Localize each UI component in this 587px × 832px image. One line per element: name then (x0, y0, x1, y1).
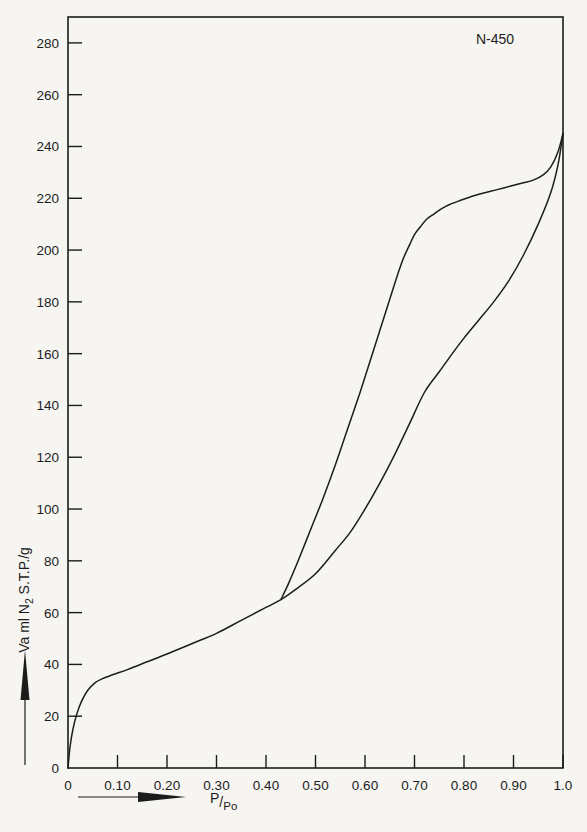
y-tick-label: 280 (36, 36, 59, 51)
y-axis-title-post: S.T.P./g (16, 547, 32, 598)
x-tick-label: 0.70 (401, 778, 427, 793)
x-tick-label: 0.50 (302, 778, 328, 793)
adsorption-branch-curve (68, 134, 563, 768)
isotherm-plot: 020406080100120140160180200220240260280 … (0, 0, 587, 832)
y-axis: 020406080100120140160180200220240260280 (36, 36, 82, 776)
y-tick-label: 60 (44, 606, 59, 621)
y-tick-label: 100 (36, 502, 59, 517)
x-axis-title-numerator: P (210, 790, 219, 806)
y-axis-title-pre: Va ml N (16, 604, 32, 653)
y-tick-label: 220 (36, 191, 59, 206)
y-tick-label: 160 (36, 347, 59, 362)
x-axis: 00.100.200.300.400.500.600.700.800.901.0 (64, 755, 572, 793)
y-tick-label: 240 (36, 139, 59, 154)
chart-figure: 020406080100120140160180200220240260280 … (0, 0, 587, 832)
y-axis-title: Va ml N2 S.T.P./g (16, 547, 35, 653)
x-tick-label: 0.90 (500, 778, 526, 793)
x-tick-label: 1.0 (554, 778, 573, 793)
x-tick-label: 0 (64, 778, 72, 793)
y-axis-direction-arrow (21, 650, 30, 765)
y-tick-label: 200 (36, 243, 59, 258)
y-tick-label: 180 (36, 295, 59, 310)
y-axis-title-group: Va ml N2 S.T.P./g (16, 547, 35, 765)
y-tick-label: 140 (36, 398, 59, 413)
x-axis-title: P/Po (210, 790, 237, 812)
y-tick-label: 260 (36, 88, 59, 103)
y-tick-label: 80 (44, 554, 59, 569)
y-tick-label: 40 (44, 657, 59, 672)
y-tick-label: 0 (51, 761, 59, 776)
sample-annotation-label: N-450 (476, 31, 514, 47)
y-tick-label: 20 (44, 709, 59, 724)
y-tick-label: 120 (36, 450, 59, 465)
x-axis-direction-arrow (78, 792, 186, 802)
x-tick-label: 0.20 (154, 778, 180, 793)
plot-frame (68, 17, 563, 768)
x-axis-title-denominator: Po (223, 800, 237, 812)
x-tick-label: 0.10 (104, 778, 130, 793)
x-tick-label: 0.80 (451, 778, 477, 793)
x-tick-label: 0.40 (253, 778, 279, 793)
desorption-branch-curve (281, 134, 563, 600)
x-axis-title-group: P/Po (78, 790, 237, 812)
x-tick-label: 0.60 (352, 778, 378, 793)
